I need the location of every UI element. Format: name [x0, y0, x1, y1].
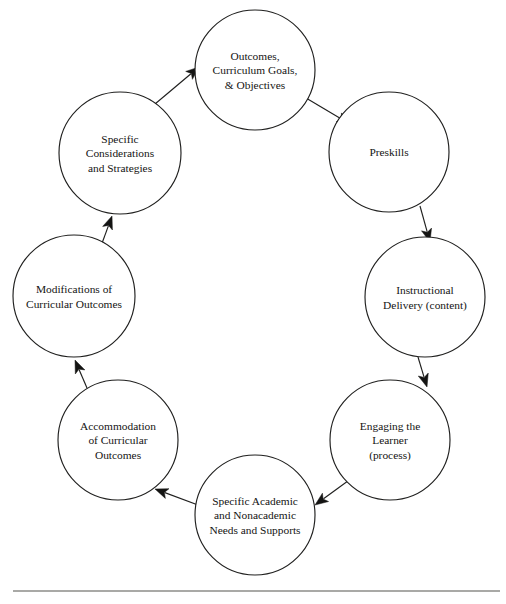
arrow-shaft [420, 206, 427, 232]
node-label-line: Curricular Outcomes [26, 298, 122, 310]
node-label-line: Outcomes, [230, 50, 279, 62]
node-label-line: and Nonacademic [214, 509, 296, 521]
node-label-line: of Curricular [88, 434, 147, 446]
arrow-shaft [155, 74, 191, 104]
node-label-line: Engaging the [360, 420, 420, 432]
node-label: Specific Academicand NonacademicNeeds an… [209, 495, 301, 536]
node-circle[interactable] [365, 237, 485, 357]
node-label-line: and Strategies [88, 162, 153, 174]
arrow-head [315, 493, 329, 505]
node-label-line: Considerations [86, 147, 155, 159]
arrow-accommodation-to-modifications [75, 360, 87, 388]
node-modifications-of-curricular-outcomes[interactable]: Modifications ofCurricular Outcomes [13, 235, 135, 357]
nodes-layer: Outcomes,Curriculum Goals,& ObjectivesPr… [13, 10, 485, 575]
node-label-line: Curriculum Goals, [213, 64, 298, 76]
node-label-line: & Objectives [225, 79, 286, 91]
node-specific-considerations-and-strategies[interactable]: SpecificConsiderationsand Strategies [59, 92, 181, 214]
arrow-shaft [79, 370, 87, 388]
arrow-instructional-delivery-to-engaging-learner [418, 357, 428, 387]
node-label-line: Delivery (content) [383, 299, 467, 312]
arrow-shaft [306, 98, 341, 119]
node-label-line: (process) [369, 449, 411, 462]
node-label-line: Learner [372, 434, 408, 446]
node-label-line: Needs and Supports [209, 524, 301, 536]
cycle-diagram-canvas: Outcomes,Curriculum Goals,& ObjectivesPr… [0, 0, 506, 604]
node-specific-academic-and-nonacademic-needs-and-supports[interactable]: Specific Academicand NonacademicNeeds an… [195, 455, 315, 575]
arrow-modifications-to-specific-considerations [101, 216, 112, 246]
node-label-line: Specific Academic [212, 495, 298, 507]
node-label-line: Outcomes [95, 449, 142, 461]
cycle-diagram: Outcomes,Curriculum Goals,& ObjectivesPr… [0, 0, 506, 604]
node-label-line: Preskills [369, 146, 409, 158]
node-label-line: Instructional [396, 284, 454, 296]
arrow-specific-considerations-to-outcomes [155, 67, 199, 104]
arrow-shaft [165, 493, 198, 505]
node-preskills[interactable]: Preskills [329, 92, 449, 212]
node-label: Preskills [369, 146, 409, 158]
node-engaging-the-learner-process[interactable]: Engaging theLearner(process) [330, 380, 450, 500]
node-outcomes-curriculum-goals-objectives[interactable]: Outcomes,Curriculum Goals,& Objectives [195, 10, 315, 130]
node-label-line: Accommodation [80, 420, 156, 432]
node-circle[interactable] [13, 235, 135, 357]
arrow-specific-academic-needs-to-accommodation [155, 489, 198, 505]
node-label-line: Specific [101, 133, 138, 145]
node-label-line: Modifications of [36, 283, 112, 295]
node-instructional-delivery-content[interactable]: InstructionalDelivery (content) [365, 237, 485, 357]
arrow-shaft [418, 357, 424, 377]
node-accommodation-of-curricular-outcomes[interactable]: Accommodationof CurricularOutcomes [58, 380, 178, 500]
